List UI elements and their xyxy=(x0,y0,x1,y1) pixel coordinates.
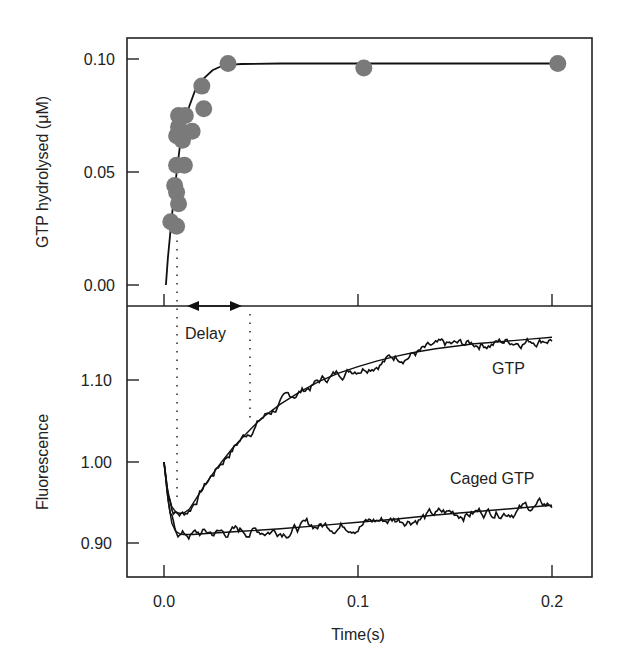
tick-label: 0.1 xyxy=(347,593,369,610)
bottom-y-tick-labels: 1.10 1.00 0.90 xyxy=(81,372,112,552)
data-point xyxy=(220,55,237,72)
data-point xyxy=(176,157,193,174)
tick-label: 0.0 xyxy=(153,593,175,610)
bottom-y-axis xyxy=(127,380,139,543)
delay-arrow xyxy=(187,301,242,311)
top-y-axis xyxy=(127,59,139,285)
tick-label: 0.05 xyxy=(84,164,115,181)
x-tick-labels: 0.0 0.1 0.2 xyxy=(153,593,563,610)
tick-label: 0.2 xyxy=(541,593,563,610)
data-point xyxy=(193,78,210,95)
top-y-tick-labels: 0.10 0.05 0.00 xyxy=(84,51,115,294)
top-data-points xyxy=(162,55,566,235)
x-axis-label: Time(s) xyxy=(331,626,385,643)
data-point xyxy=(170,195,187,212)
tick-label: 1.10 xyxy=(81,372,112,389)
delay-label: Delay xyxy=(185,325,226,342)
tick-label: 0.00 xyxy=(84,277,115,294)
top-fit-curve xyxy=(166,64,554,286)
bottom-x-ticks xyxy=(164,565,552,577)
gtp-series-label: GTP xyxy=(492,360,525,377)
data-point xyxy=(168,218,185,235)
data-point xyxy=(355,60,372,77)
data-point xyxy=(184,123,201,140)
tick-label: 0.90 xyxy=(81,535,112,552)
chart-figure: 0.10 0.05 0.00 GTP hydrolysed (μM) 1.10 … xyxy=(0,0,622,672)
data-point xyxy=(195,100,212,117)
data-point xyxy=(177,107,194,124)
caged-gtp-series-label: Caged GTP xyxy=(450,470,534,487)
top-x-ticks xyxy=(164,294,552,306)
tick-label: 0.10 xyxy=(84,51,115,68)
tick-label: 1.00 xyxy=(81,454,112,471)
bottom-y-axis-label: Fluorescence xyxy=(34,414,51,510)
top-y-axis-label: GTP hydrolysed (μM) xyxy=(34,96,51,248)
data-point xyxy=(549,55,566,72)
